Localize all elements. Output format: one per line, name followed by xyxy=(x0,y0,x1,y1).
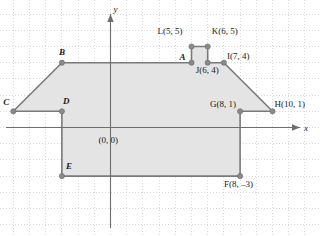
x-axis-label: x xyxy=(304,124,308,133)
vertex-label-d: D xyxy=(63,97,70,106)
vertex-label-l: L(5, 5) xyxy=(158,27,183,36)
vertex-marker-h xyxy=(270,109,275,114)
vertex-label-k: K(6, 5) xyxy=(212,27,238,36)
vertex-label-c: C xyxy=(3,98,9,107)
vertex-marker-b xyxy=(59,60,64,65)
vertex-marker-a xyxy=(189,60,194,65)
vertex-label-f: F(8, –3) xyxy=(224,180,253,189)
vertex-label-b: B xyxy=(59,48,65,57)
coordinate-geometry-figure: AL(5, 5)K(6, 5)J(6, 4)I(7, 4)H(10, 1)G(8… xyxy=(0,0,320,236)
vertex-marker-i xyxy=(221,60,226,65)
vertex-label-a: A xyxy=(180,53,186,62)
vertex-marker-k xyxy=(205,44,210,49)
vertex-label-g: G(8, 1) xyxy=(210,100,236,109)
vertex-marker-g xyxy=(238,109,243,114)
vertex-marker-e xyxy=(59,174,64,179)
vertex-marker-c xyxy=(11,109,16,114)
y-axis-label: y xyxy=(114,5,118,14)
origin-label: (0, 0) xyxy=(99,136,119,145)
shaded-polygon xyxy=(13,47,272,177)
vertex-label-h: H(10, 1) xyxy=(275,100,306,109)
vertex-label-e: E xyxy=(66,162,72,171)
vertex-marker-f xyxy=(238,174,243,179)
vertex-marker-l xyxy=(189,44,194,49)
vertex-label-j: J(6, 4) xyxy=(196,66,219,75)
vertex-marker-d xyxy=(59,109,64,114)
vertex-label-i: I(7, 4) xyxy=(227,52,250,61)
